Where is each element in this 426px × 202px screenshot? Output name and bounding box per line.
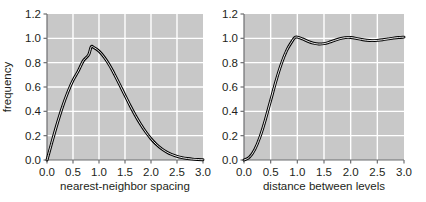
y-tick-label: 0.2	[222, 130, 238, 142]
y-tick-label: 1.2	[222, 8, 238, 20]
y-tick-label: 0.6	[222, 81, 238, 93]
x-tick-label: 2.5	[369, 166, 385, 178]
y-tick-label: 1.0	[222, 32, 238, 44]
x-tick-label: 1.5	[117, 166, 133, 178]
y-tick-label: 0.4	[222, 105, 239, 117]
y-tick-label: 0.4	[25, 105, 42, 117]
x-axis-label: distance between levels	[263, 180, 385, 192]
y-tick-label: 0.2	[25, 130, 41, 142]
left-panel-svg: 0.00.20.40.60.81.01.2 0.00.51.01.52.02.5…	[0, 0, 213, 202]
y-tick-labels: 0.00.20.40.60.81.01.2	[25, 8, 42, 166]
figure-two-panel-chart: 0.00.20.40.60.81.01.2 0.00.51.01.52.02.5…	[0, 0, 426, 202]
x-tick-label: 1.0	[289, 166, 305, 178]
x-tick-label: 1.5	[316, 166, 332, 178]
y-tick-label: 0.0	[25, 154, 41, 166]
x-tick-label: 2.5	[169, 166, 185, 178]
x-tick-label: 0.5	[65, 166, 81, 178]
x-tick-label: 1.0	[91, 166, 107, 178]
x-tick-labels: 0.00.51.01.52.02.53.0	[39, 166, 211, 178]
y-tick-labels: 0.00.20.40.60.81.01.2	[222, 8, 239, 166]
y-tick-label: 0.8	[222, 57, 238, 69]
x-axis-label: nearest-neighbor spacing	[60, 180, 190, 192]
x-tick-label: 3.0	[195, 166, 211, 178]
y-tick-label: 1.2	[25, 8, 41, 20]
chart-panel-right: 0.00.20.40.60.81.01.2 0.00.51.01.52.02.5…	[213, 0, 426, 202]
y-tick-label: 1.0	[25, 32, 41, 44]
x-tick-label: 0.0	[39, 166, 55, 178]
chart-panel-left: 0.00.20.40.60.81.01.2 0.00.51.01.52.02.5…	[0, 0, 213, 202]
y-tick-label: 0.6	[25, 81, 41, 93]
x-tick-label: 3.0	[396, 166, 412, 178]
right-panel-svg: 0.00.20.40.60.81.01.2 0.00.51.01.52.02.5…	[213, 0, 426, 202]
x-tick-labels: 0.00.51.01.52.02.53.0	[236, 166, 412, 178]
x-tick-label: 2.0	[143, 166, 159, 178]
x-tick-label: 2.0	[343, 166, 359, 178]
x-tick-label: 0.0	[236, 166, 252, 178]
y-tick-label: 0.8	[25, 57, 41, 69]
y-axis-label: frequency	[1, 62, 13, 113]
y-tick-label: 0.0	[222, 154, 238, 166]
x-tick-label: 0.5	[263, 166, 279, 178]
